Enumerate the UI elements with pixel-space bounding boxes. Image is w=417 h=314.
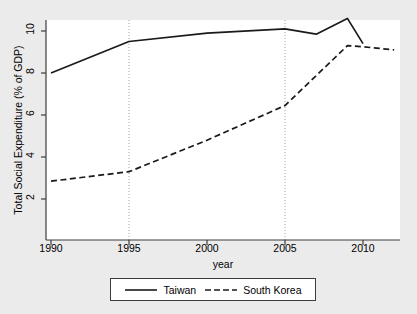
chart-figure: Total Social Expenditure (% of GDP) year… (0, 0, 417, 314)
x-tick-label-1995: 1995 (107, 242, 151, 254)
y-tick-label-2: 2 (24, 187, 36, 207)
y-axis-title: Total Social Expenditure (% of GDP) (10, 20, 26, 240)
legend-label-south-korea: South Korea (243, 284, 301, 296)
chart-legend: Taiwan South Korea (110, 278, 316, 301)
x-tick-label-2010: 2010 (341, 242, 385, 254)
y-tick-label-6: 6 (24, 103, 36, 123)
y-tick-label-10: 10 (24, 19, 36, 39)
x-axis-title: year (46, 258, 400, 270)
x-tick-label-2005: 2005 (263, 242, 307, 254)
legend-item-taiwan: Taiwan (124, 284, 196, 296)
x-tick-label-1990: 1990 (29, 242, 73, 254)
legend-swatch-solid-icon (124, 285, 158, 295)
series-lines (51, 18, 394, 181)
legend-label-taiwan: Taiwan (163, 284, 196, 296)
y-tick-label-8: 8 (24, 61, 36, 81)
y-tick-label-4: 4 (24, 145, 36, 165)
legend-item-south-korea: South Korea (204, 284, 301, 296)
series-line-taiwan (51, 18, 363, 73)
reference-lines (129, 20, 285, 240)
axis-ticks (41, 31, 363, 245)
x-tick-label-2000: 2000 (185, 242, 229, 254)
legend-swatch-dashed-icon (204, 285, 238, 295)
series-line-south-korea (51, 46, 394, 181)
